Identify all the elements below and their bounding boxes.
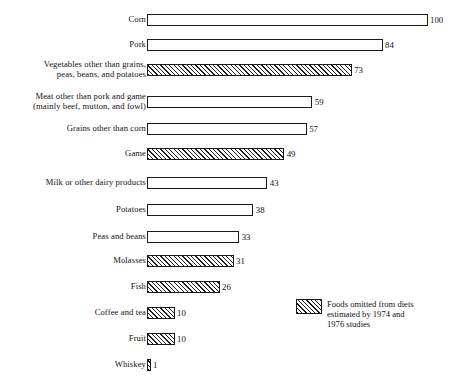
bar-category-label: Fruit — [0, 334, 146, 344]
bar-hatched — [147, 307, 175, 319]
bar-category-label: Coffee and tea — [0, 308, 146, 318]
bar-category-label: Potatoes — [0, 205, 146, 215]
bar-plain — [147, 204, 254, 216]
bar-category-label: Fish — [0, 282, 146, 292]
bar-wrapper: 26 — [147, 281, 231, 293]
bar-value-label: 100 — [430, 14, 443, 26]
bar-chart: Corn100Pork84Vegetables other than grain… — [0, 0, 465, 388]
bar-wrapper: 59 — [147, 96, 324, 108]
bar-value-label: 73 — [354, 64, 363, 76]
bar-category-label: Meat other than pork and game (mainly be… — [0, 92, 146, 111]
bar-category-label: Whiskey — [0, 360, 146, 370]
bar-hatched — [147, 333, 175, 345]
bar-category-label: Molasses — [0, 256, 146, 266]
bar-wrapper: 10 — [147, 333, 186, 345]
bar-category-label: Vegetables other than grains, peas, bean… — [0, 60, 146, 79]
bar-hatched — [147, 359, 151, 371]
bar-value-label: 10 — [177, 307, 186, 319]
bar-value-label: 26 — [222, 281, 231, 293]
bar-wrapper: 10 — [147, 307, 186, 319]
bar-value-label: 1 — [153, 359, 157, 371]
bar-hatched — [147, 281, 220, 293]
bar-plain — [147, 96, 313, 108]
bar-wrapper: 1 — [147, 359, 158, 371]
chart-legend: Foods omitted from diets estimated by 19… — [296, 299, 414, 330]
legend-swatch-hatched-icon — [296, 299, 322, 314]
bar-hatched — [147, 255, 234, 267]
bar-plain — [147, 177, 268, 189]
bar-plain — [147, 14, 428, 26]
bar-value-label: 57 — [309, 123, 318, 135]
bar-hatched — [147, 64, 352, 76]
bar-value-label: 84 — [385, 39, 394, 51]
bar-category-label: Pork — [0, 40, 146, 50]
bar-wrapper: 49 — [147, 148, 296, 160]
bar-value-label: 31 — [236, 255, 245, 267]
bar-category-label: Grains other than corn — [0, 124, 146, 134]
bar-wrapper: 73 — [147, 64, 363, 76]
bar-category-label: Game — [0, 149, 146, 159]
bar-category-label: Corn — [0, 15, 146, 25]
bar-wrapper: 57 — [147, 123, 318, 135]
bar-value-label: 43 — [270, 177, 279, 189]
bar-value-label: 33 — [242, 231, 251, 243]
bar-category-label: Milk or other dairy products — [0, 178, 146, 188]
bar-wrapper: 38 — [147, 204, 265, 216]
bar-wrapper: 84 — [147, 39, 394, 51]
bar-wrapper: 43 — [147, 177, 279, 189]
bar-value-label: 10 — [177, 333, 186, 345]
bar-plain — [147, 39, 383, 51]
bar-value-label: 49 — [287, 148, 296, 160]
bar-wrapper: 31 — [147, 255, 245, 267]
bar-category-label: Peas and beans — [0, 232, 146, 242]
bar-value-label: 38 — [256, 204, 265, 216]
bar-plain — [147, 231, 240, 243]
bar-value-label: 59 — [315, 96, 324, 108]
bar-wrapper: 33 — [147, 231, 251, 243]
bar-hatched — [147, 148, 285, 160]
bar-plain — [147, 123, 307, 135]
bar-wrapper: 100 — [147, 14, 444, 26]
legend-label: Foods omitted from diets estimated by 19… — [327, 299, 414, 330]
